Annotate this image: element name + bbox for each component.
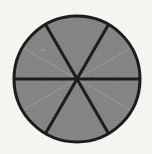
fraction-circle-svg xyxy=(0,0,152,154)
fraction-circle-figure xyxy=(0,0,152,154)
